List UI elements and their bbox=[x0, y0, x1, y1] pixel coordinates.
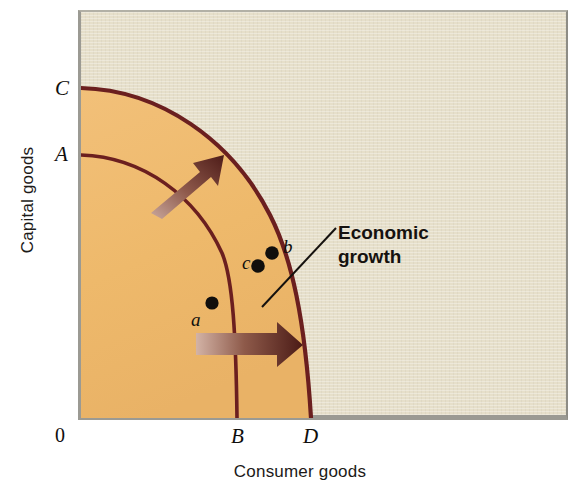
ppf-economic-growth-figure: C A 0 B D a b c Economic growth Capital … bbox=[0, 0, 587, 495]
axis-label-C: C bbox=[55, 76, 69, 101]
annotation-line-2: growth bbox=[338, 245, 478, 269]
point-label-b: b bbox=[283, 236, 293, 258]
x-axis-title: Consumer goods bbox=[190, 462, 410, 482]
data-point-b bbox=[265, 246, 279, 260]
axis-label-B: B bbox=[231, 424, 244, 449]
axis-label-origin: 0 bbox=[55, 424, 65, 447]
data-point-a bbox=[205, 296, 218, 309]
point-label-c: c bbox=[242, 252, 250, 274]
y-axis-title: Capital goods bbox=[18, 130, 38, 270]
point-label-a: a bbox=[191, 309, 201, 331]
annotation-line-1: Economic bbox=[338, 221, 478, 245]
chart-canvas bbox=[0, 0, 587, 495]
axis-label-A: A bbox=[55, 142, 68, 167]
data-point-c bbox=[251, 259, 265, 273]
annotation-economic-growth: Economic growth bbox=[338, 221, 478, 269]
axis-label-D: D bbox=[303, 424, 318, 449]
